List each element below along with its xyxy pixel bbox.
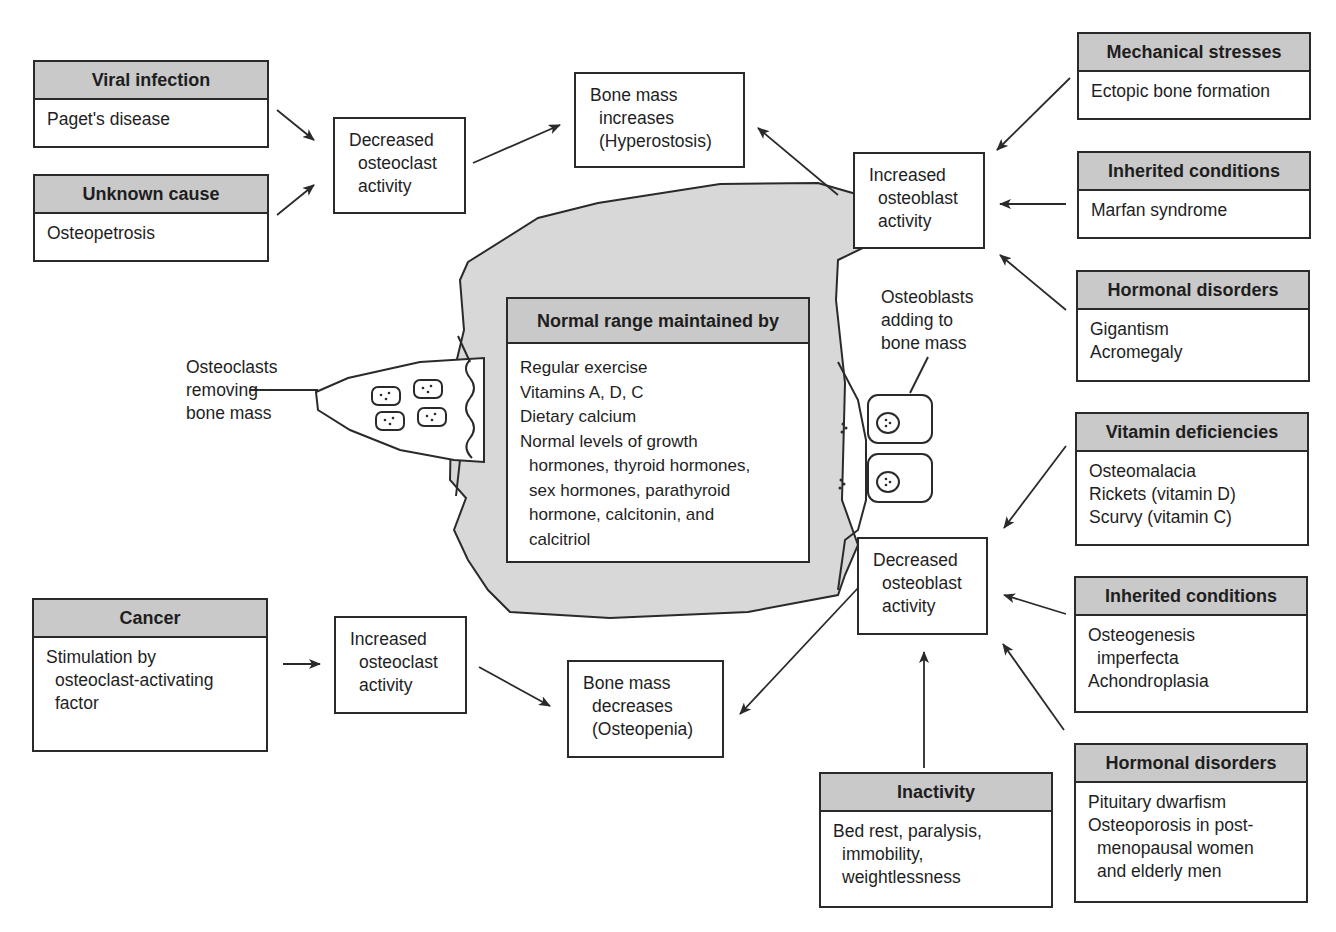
cause-item: osteoclast-activating bbox=[46, 669, 254, 692]
process-increased-osteoblast: Increased osteoblast activity bbox=[853, 152, 985, 249]
cause-item: immobility, bbox=[833, 843, 1039, 866]
cause-header: Inherited conditions bbox=[1076, 578, 1306, 616]
cause-header: Hormonal disorders bbox=[1078, 272, 1308, 310]
normal-range-box: Normal range maintained by Regular exerc… bbox=[506, 297, 810, 563]
outcome-text: Bone mass bbox=[590, 84, 729, 107]
cause-box-inherited-conditions-decrease: Inherited conditions Osteogenesis imperf… bbox=[1074, 576, 1308, 713]
cause-item: Achondroplasia bbox=[1088, 670, 1294, 693]
label-text: bone mass bbox=[186, 402, 277, 425]
cause-item: Ectopic bone formation bbox=[1091, 80, 1297, 103]
outcome-text: decreases bbox=[583, 695, 708, 718]
cause-box-hormonal-disorders-decrease: Hormonal disorders Pituitary dwarfism Os… bbox=[1074, 743, 1308, 903]
process-text: osteoblast bbox=[869, 187, 969, 210]
process-text: Increased bbox=[350, 628, 451, 651]
cause-header: Inactivity bbox=[821, 774, 1051, 812]
cause-header: Viral infection bbox=[35, 62, 267, 100]
cause-item: Scurvy (vitamin C) bbox=[1089, 506, 1295, 529]
process-text: activity bbox=[869, 210, 969, 233]
cause-item: factor bbox=[46, 692, 254, 715]
normal-range-item: sex hormones, parathyroid bbox=[520, 479, 796, 504]
cause-item: Rickets (vitamin D) bbox=[1089, 483, 1295, 506]
cause-item: Acromegaly bbox=[1090, 341, 1296, 364]
cause-header: Mechanical stresses bbox=[1079, 34, 1309, 72]
cause-box-cancer: Cancer Stimulation by osteoclast-activat… bbox=[32, 598, 268, 752]
label-text: adding to bbox=[881, 309, 973, 332]
cause-item: weightlessness bbox=[833, 866, 1039, 889]
normal-range-item: Normal levels of growth bbox=[520, 430, 796, 455]
normal-range-item: Vitamins A, D, C bbox=[520, 381, 796, 406]
outcome-bone-mass-increases: Bone mass increases (Hyperostosis) bbox=[574, 72, 745, 168]
process-increased-osteoclast: Increased osteoclast activity bbox=[334, 616, 467, 714]
cause-box-mechanical-stresses: Mechanical stresses Ectopic bone formati… bbox=[1077, 32, 1311, 120]
cause-box-vitamin-deficiencies: Vitamin deficiencies Osteomalacia Ricket… bbox=[1075, 412, 1309, 546]
outcome-bone-mass-decreases: Bone mass decreases (Osteopenia) bbox=[567, 660, 724, 758]
cause-box-viral-infection: Viral infection Paget's disease bbox=[33, 60, 269, 148]
cause-box-inherited-conditions-increase: Inherited conditions Marfan syndrome bbox=[1077, 151, 1311, 239]
cause-item: Osteoporosis in post- bbox=[1088, 814, 1294, 837]
process-text: Decreased bbox=[349, 129, 450, 152]
normal-range-header: Normal range maintained by bbox=[508, 299, 808, 344]
label-text: Osteoblasts bbox=[881, 286, 973, 309]
cause-header: Unknown cause bbox=[35, 176, 267, 214]
label-text: bone mass bbox=[881, 332, 973, 355]
normal-range-item: calcitriol bbox=[520, 528, 796, 553]
cause-header: Vitamin deficiencies bbox=[1077, 414, 1307, 452]
process-decreased-osteoblast: Decreased osteoblast activity bbox=[857, 537, 988, 635]
process-text: Decreased bbox=[873, 549, 972, 572]
process-text: activity bbox=[349, 175, 450, 198]
normal-range-item: hormones, thyroid hormones, bbox=[520, 454, 796, 479]
cause-box-unknown-cause: Unknown cause Osteopetrosis bbox=[33, 174, 269, 262]
cause-item: Pituitary dwarfism bbox=[1088, 791, 1294, 814]
outcome-text: (Hyperostosis) bbox=[590, 130, 729, 153]
cause-item: Osteopetrosis bbox=[47, 222, 255, 245]
osteoclasts-label: Osteoclasts removing bone mass bbox=[186, 356, 277, 425]
cause-header: Cancer bbox=[34, 600, 266, 638]
normal-range-item: hormone, calcitonin, and bbox=[520, 503, 796, 528]
cause-header: Inherited conditions bbox=[1079, 153, 1309, 191]
cause-box-inactivity: Inactivity Bed rest, paralysis, immobili… bbox=[819, 772, 1053, 908]
cause-item: Marfan syndrome bbox=[1091, 199, 1297, 222]
cause-item: Stimulation by bbox=[46, 646, 254, 669]
cause-item: Paget's disease bbox=[47, 108, 255, 131]
outcome-text: increases bbox=[590, 107, 729, 130]
process-text: osteoblast bbox=[873, 572, 972, 595]
osteoclast-cell bbox=[316, 358, 484, 462]
label-text: removing bbox=[186, 379, 277, 402]
outcome-text: (Osteopenia) bbox=[583, 718, 708, 741]
normal-range-item: Dietary calcium bbox=[520, 405, 796, 430]
process-text: osteoclast bbox=[350, 651, 451, 674]
cause-header: Hormonal disorders bbox=[1076, 745, 1306, 783]
cause-item: Osteogenesis bbox=[1088, 624, 1294, 647]
cause-item: and elderly men bbox=[1088, 860, 1294, 883]
osteoblasts-label: Osteoblasts adding to bone mass bbox=[881, 286, 973, 355]
process-decreased-osteoclast: Decreased osteoclast activity bbox=[333, 117, 466, 214]
label-text: Osteoclasts bbox=[186, 356, 277, 379]
cause-item: Bed rest, paralysis, bbox=[833, 820, 1039, 843]
outcome-text: Bone mass bbox=[583, 672, 708, 695]
cause-item: menopausal women bbox=[1088, 837, 1294, 860]
cause-item: Gigantism bbox=[1090, 318, 1296, 341]
normal-range-item: Regular exercise bbox=[520, 356, 796, 381]
process-text: osteoclast bbox=[349, 152, 450, 175]
cause-item: imperfecta bbox=[1088, 647, 1294, 670]
process-text: Increased bbox=[869, 164, 969, 187]
cause-box-hormonal-disorders-increase: Hormonal disorders Gigantism Acromegaly bbox=[1076, 270, 1310, 382]
process-text: activity bbox=[873, 595, 972, 618]
cause-item: Osteomalacia bbox=[1089, 460, 1295, 483]
process-text: activity bbox=[350, 674, 451, 697]
